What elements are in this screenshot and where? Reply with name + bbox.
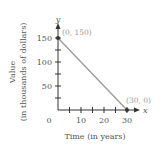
data-point-end xyxy=(125,108,129,112)
y-axis-title-line2: (in thousands of dollars) xyxy=(19,23,28,122)
x-axis-arrow-icon xyxy=(134,108,140,113)
chart: 150 100 50 0 10 20 30 y x (0, 150) (30, … xyxy=(0,0,164,148)
x-axis-var: x xyxy=(143,106,148,115)
x-tick-label-10: 10 xyxy=(76,116,86,125)
annotation-end: (30, 0) xyxy=(126,96,151,105)
y-tick-label-50: 50 xyxy=(42,82,52,91)
y-tick-label-100: 100 xyxy=(37,58,52,67)
data-point-start xyxy=(56,36,60,40)
annotation-start: (0, 150) xyxy=(62,28,92,37)
x-tick-label-30: 30 xyxy=(122,116,132,125)
x-tick-label-20: 20 xyxy=(99,116,109,125)
data-line xyxy=(58,38,127,110)
y-axis-title-line1: Value xyxy=(8,61,17,85)
x-tick-label-0: 0 xyxy=(46,116,51,125)
x-axis-title: Time (in years) xyxy=(64,132,125,141)
y-tick-label-150: 150 xyxy=(37,34,52,43)
y-axis-var: y xyxy=(55,15,61,24)
